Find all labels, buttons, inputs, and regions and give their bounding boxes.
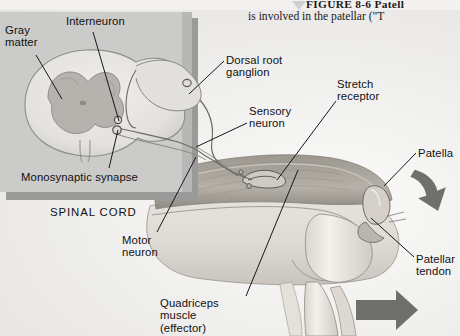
illustration-area: Gray matterInterneuronMonosynaptic synap… xyxy=(0,10,460,336)
lower-leg-soft-tissue xyxy=(280,282,302,336)
label-interneuron: Interneuron xyxy=(66,15,125,27)
label-gray-matter: Gray matter xyxy=(5,24,38,49)
label-sensory-neuron: Sensory neuron xyxy=(249,105,291,130)
label-motor-neuron: Motor neuron xyxy=(122,234,158,259)
label-monosynaptic-synapse: Monosynaptic synapse xyxy=(21,171,138,183)
figure-root: Gray matterInterneuronMonosynaptic synap… xyxy=(0,0,460,336)
central-canal xyxy=(80,101,86,105)
leg-kick-arrow xyxy=(356,290,418,330)
triangle-marker-icon xyxy=(292,1,306,10)
figure-caption: FIGURE 8-6 Patell is involved in the pat… xyxy=(248,0,460,27)
patella-bone xyxy=(363,186,390,225)
label-dorsal-root-ganglion: Dorsal root ganglion xyxy=(226,54,282,79)
figure-caption-line1: FIGURE 8-6 Patell xyxy=(306,0,404,10)
leader-patella xyxy=(384,153,416,186)
dorsal-root-ganglion xyxy=(183,79,191,86)
patellar-tendon-tap-arrow xyxy=(403,169,448,211)
label-patella: Patella xyxy=(418,147,453,159)
label-quadriceps-muscle: Quadriceps muscle (effector) xyxy=(160,297,219,334)
label-spinal-cord: SPINAL CORD xyxy=(50,206,137,218)
label-stretch-receptor: Stretch receptor xyxy=(337,78,379,103)
leader-sensory-neuron xyxy=(196,123,247,147)
figure-caption-line2: is involved in the patellar ("T xyxy=(248,10,384,23)
label-patellar-tendon: Patellar tendon xyxy=(416,253,455,278)
